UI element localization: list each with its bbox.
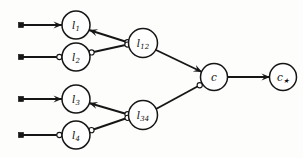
node-label-c: c [211,71,217,83]
edge-l2-l12 [89,44,130,53]
node-l2[interactable]: l2 [62,43,90,71]
edge-l12-c [156,50,202,72]
terminal-square-t3-l3 [18,96,23,101]
edge-l4-l34 [89,117,130,131]
node-c[interactable]: c [201,64,228,91]
tree-diagram-svg: l1l2l12l3l4l34cc★ [0,0,303,158]
bubble-end-t4-l4 [57,132,62,137]
terminal-square-t4-l4 [18,132,23,137]
node-l1[interactable]: l1 [62,11,90,39]
edge-l34-c [156,84,202,109]
node-l4[interactable]: l4 [62,121,90,149]
terminal-square-t1-l1 [18,22,23,27]
node-cstar[interactable]: c★ [270,64,297,91]
node-l3[interactable]: l3 [62,85,90,113]
bubble-end-t2-l2 [57,54,62,59]
edge-l3-l34 [89,103,130,115]
edge-l1-l12 [89,30,130,43]
terminal-square-t2-l2 [18,54,23,59]
node-l34[interactable]: l34 [129,101,158,130]
diagram-canvas: l1l2l12l3l4l34cc★ [0,0,303,158]
node-l12[interactable]: l12 [129,29,158,58]
